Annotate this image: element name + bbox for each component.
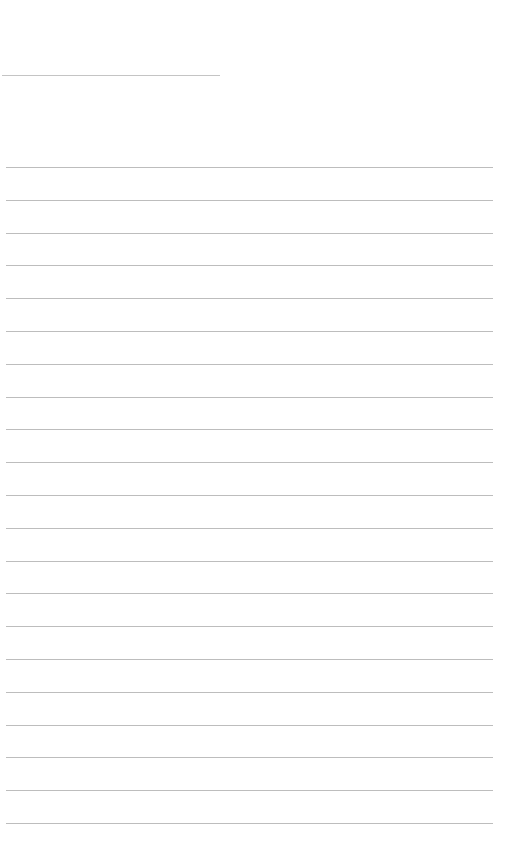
ruled-line: [6, 265, 493, 266]
ruled-line: [6, 561, 493, 562]
ruled-line: [6, 364, 493, 365]
ruled-line: [6, 823, 493, 824]
title-underline: [2, 75, 220, 76]
ruled-line: [6, 593, 493, 594]
ruled-line: [6, 757, 493, 758]
ruled-line: [6, 233, 493, 234]
ruled-line: [6, 528, 493, 529]
ruled-line: [6, 725, 493, 726]
ruled-line: [6, 626, 493, 627]
ruled-line: [6, 200, 493, 201]
ruled-line: [6, 462, 493, 463]
ruled-line: [6, 659, 493, 660]
ruled-line: [6, 397, 493, 398]
ruled-line: [6, 692, 493, 693]
ruled-line: [6, 331, 493, 332]
ruled-line: [6, 429, 493, 430]
ruled-line: [6, 790, 493, 791]
ruled-line: [6, 495, 493, 496]
ruled-line: [6, 298, 493, 299]
lined-page: [0, 0, 531, 864]
ruled-line: [6, 167, 493, 168]
